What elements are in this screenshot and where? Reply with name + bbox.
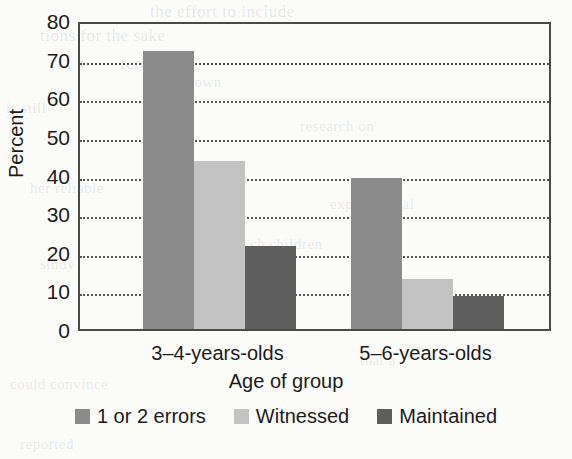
background-bleed-line: the effort to include: [150, 2, 295, 22]
y-tick-label: 60: [30, 88, 70, 109]
legend-label: 1 or 2 errors: [97, 406, 206, 426]
x-axis-title: Age of group: [0, 370, 572, 393]
bar: [402, 279, 453, 329]
bar: [351, 178, 402, 329]
legend-swatch-icon: [75, 409, 90, 424]
x-tick-label: 5–6-years-olds: [316, 342, 536, 365]
bar: [245, 246, 296, 329]
legend-entry: Maintained: [377, 406, 497, 426]
y-tick-label: 30: [30, 204, 70, 225]
legend-label: Witnessed: [256, 406, 349, 426]
y-tick-label: 40: [30, 166, 70, 187]
y-tick-label: 80: [30, 11, 70, 32]
y-tick-label: 0: [30, 320, 70, 341]
bar: [453, 296, 504, 329]
chart-page: the effort to includetions for the sakef…: [0, 0, 572, 459]
legend-swatch-icon: [234, 409, 249, 424]
y-tick-label: 50: [30, 127, 70, 148]
legend-entry: Witnessed: [234, 406, 349, 426]
bar: [194, 161, 245, 329]
bars-layer: [80, 24, 549, 329]
bar: [143, 51, 194, 329]
legend-swatch-icon: [377, 409, 392, 424]
x-tick-label: 3–4-years-olds: [108, 342, 328, 365]
legend-entry: 1 or 2 errors: [75, 406, 206, 426]
y-tick-label: 20: [30, 243, 70, 264]
y-tick-label: 70: [30, 50, 70, 71]
plot-area: [78, 22, 551, 331]
background-bleed-line: reported: [20, 436, 74, 453]
y-tick-label: 10: [30, 281, 70, 302]
legend-label: Maintained: [399, 406, 497, 426]
chart-legend: 1 or 2 errorsWitnessedMaintained: [0, 406, 572, 426]
